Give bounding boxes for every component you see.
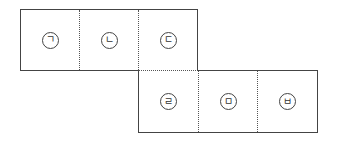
- net-bottom-row: ㄹ ㅁ ㅂ: [138, 70, 318, 133]
- face-label: ㄷ: [160, 32, 177, 49]
- face-bieup: ㅂ: [257, 71, 317, 132]
- face-nieun: ㄴ: [79, 10, 138, 70]
- face-label: ㄱ: [42, 32, 59, 49]
- face-giyeok: ㄱ: [21, 10, 79, 70]
- face-label: ㄹ: [160, 93, 177, 110]
- face-label: ㄴ: [101, 32, 118, 49]
- face-label: ㅁ: [220, 93, 237, 110]
- face-label: ㅂ: [279, 93, 296, 110]
- face-rieul: ㄹ: [139, 71, 198, 132]
- face-digeut: ㄷ: [138, 10, 197, 70]
- face-mieum: ㅁ: [198, 71, 258, 132]
- net-top-row: ㄱ ㄴ ㄷ: [20, 9, 198, 71]
- bottom-row-top-edge: [197, 70, 318, 71]
